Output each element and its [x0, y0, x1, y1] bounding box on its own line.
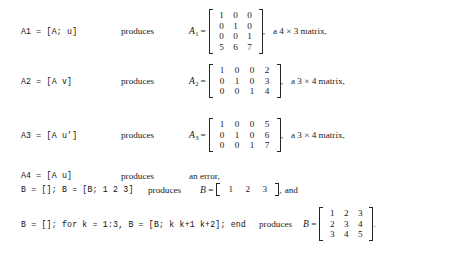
matrix-row: 1 2 3 — [222, 184, 273, 195]
matrix-cell: 2 — [260, 65, 275, 76]
matrix-b2: 1 2 3 2 3 4 3 4 5 — [319, 207, 373, 242]
matrix-cell: 0 — [230, 140, 245, 151]
matrix-cell: 0 — [215, 130, 230, 141]
code-expression-b1: B = []; B = [B; 1 2 3] — [21, 185, 148, 194]
matrix-cell: 1 — [243, 31, 257, 42]
matrix-cell: 0 — [245, 65, 260, 76]
result-a2: A2 = 1 0 0 2 0 1 0 3 — [189, 64, 345, 99]
matrix-cell: 4 — [260, 86, 275, 97]
error-message-a4: an error, — [189, 171, 220, 181]
punctuation-a1: , — [263, 26, 265, 36]
matrix-cell: 3 — [256, 184, 273, 195]
matrix-cell: 5 — [260, 119, 275, 130]
matrix-row: 1 0 0 — [215, 10, 257, 21]
matrix-cell: 1 — [215, 10, 229, 21]
matrix-b1: 1 2 3 — [216, 183, 279, 197]
matrix-cell: 0 — [245, 76, 260, 87]
matrix-cell: 1 — [229, 21, 243, 32]
produces-label-a2: produces — [121, 76, 189, 86]
matrix-cell: 0 — [215, 76, 230, 87]
matrix-cell: 2 — [239, 184, 256, 195]
punctuation-b1: , — [279, 185, 281, 195]
matrix-cell: 1 — [222, 184, 239, 195]
code-expression-a3: A3 = [A u’] — [21, 131, 121, 140]
example-row-a2: A2 = [A v] produces A2 = 1 0 0 2 0 1 — [21, 63, 345, 99]
matrix-row: 2 3 4 — [325, 219, 367, 230]
matrix-a2: 1 0 0 2 0 1 0 3 0 0 1 4 — [209, 64, 281, 99]
equals-sign-b1: = — [208, 185, 213, 195]
matrix-cells-a2: 1 0 0 2 0 1 0 3 0 0 1 4 — [214, 64, 276, 99]
punctuation-a3: , — [281, 130, 283, 140]
matrix-cell: 5 — [215, 42, 229, 53]
matrix-row: 3 4 5 — [325, 229, 367, 240]
bracket-left-icon — [209, 9, 213, 54]
matrix-row: 0 0 1 7 — [215, 140, 275, 151]
result-variable-b1: B — [200, 184, 206, 195]
matrix-row: 0 1 0 6 — [215, 130, 275, 141]
result-b1: B = 1 2 3 , and — [200, 183, 298, 197]
matrix-a1: 1 0 0 0 1 0 0 0 1 5 — [209, 9, 263, 54]
matrix-cell: 0 — [230, 119, 245, 130]
example-row-a1: A1 = [A; u] produces A1 = 1 0 0 0 1 0 — [21, 9, 327, 53]
matrix-a3: 1 0 0 5 0 1 0 6 0 0 1 7 — [209, 118, 281, 153]
matrix-cell: 1 — [215, 119, 230, 130]
result-variable-a3: A3 — [189, 129, 198, 140]
code-expression-a2: A2 = [A v] — [21, 77, 121, 86]
matrix-size-note-a2: a 3 × 4 matrix, — [291, 76, 345, 86]
matrix-row: 0 1 0 — [215, 21, 257, 32]
example-row-b1: B = []; B = [B; 1 2 3] produces B = 1 2 … — [21, 183, 298, 196]
matrix-cell: 2 — [339, 208, 353, 219]
matrix-row: 0 1 0 3 — [215, 76, 275, 87]
matrix-row: 5 6 7 — [215, 42, 257, 53]
matrix-cell: 6 — [260, 130, 275, 141]
document-page: A1 = [A; u] produces A1 = 1 0 0 0 1 0 — [0, 0, 458, 255]
example-row-a3: A3 = [A u’] produces A3 = 1 0 0 5 0 1 — [21, 117, 345, 153]
equals-sign-a3: = — [200, 130, 205, 140]
matrix-cell: 1 — [215, 65, 230, 76]
matrix-cell: 1 — [325, 208, 339, 219]
matrix-cell: 0 — [229, 31, 243, 42]
code-expression-b2: B = []; for k = 1:3, B = [B; k k+1 k+2];… — [21, 220, 259, 229]
bracket-left-icon — [216, 183, 220, 197]
matrix-row: 1 0 0 5 — [215, 119, 275, 130]
result-b2: B = 1 2 3 2 3 4 3 — [303, 207, 376, 242]
equals-sign-a1: = — [200, 26, 205, 36]
produces-label-a4: produces — [121, 171, 189, 181]
bracket-left-icon — [209, 64, 213, 99]
matrix-cell: 0 — [215, 21, 229, 32]
matrix-cell: 3 — [339, 219, 353, 230]
matrix-cell: 3 — [353, 208, 367, 219]
matrix-row: 1 2 3 — [325, 208, 367, 219]
matrix-cells-b2: 1 2 3 2 3 4 3 4 5 — [324, 207, 368, 242]
matrix-cell: 4 — [353, 219, 367, 230]
result-a3: A3 = 1 0 0 5 0 1 0 6 — [189, 118, 345, 153]
matrix-cell: 0 — [215, 31, 229, 42]
matrix-cell: 0 — [230, 86, 245, 97]
matrix-cell: 3 — [325, 229, 339, 240]
matrix-cell: 1 — [230, 76, 245, 87]
matrix-cell: 7 — [260, 140, 275, 151]
matrix-cell: 1 — [245, 86, 260, 97]
matrix-cell: 1 — [245, 140, 260, 151]
result-variable-a1: A1 — [189, 25, 198, 36]
matrix-size-note-a1: a 4 × 3 matrix, — [273, 26, 327, 36]
example-row-a4: A4 = [A u] produces an error, — [21, 170, 220, 181]
matrix-cell: 0 — [229, 10, 243, 21]
bracket-left-icon — [209, 118, 213, 153]
bracket-left-icon — [319, 207, 323, 242]
matrix-cell: 6 — [229, 42, 243, 53]
produces-label-b1: produces — [148, 185, 200, 195]
matrix-cell: 0 — [245, 119, 260, 130]
matrix-cell: 5 — [353, 229, 367, 240]
matrix-cells-a1: 1 0 0 0 1 0 0 0 1 5 — [214, 9, 258, 54]
matrix-cell: 0 — [215, 86, 230, 97]
matrix-size-note-a3: a 3 × 4 matrix, — [291, 130, 345, 140]
matrix-cell: 7 — [243, 42, 257, 53]
matrix-row: 1 0 0 2 — [215, 65, 275, 76]
matrix-row: 0 0 1 4 — [215, 86, 275, 97]
code-expression-a1: A1 = [A; u] — [21, 27, 121, 36]
produces-label-a3: produces — [121, 130, 189, 140]
matrix-cell: 3 — [260, 76, 275, 87]
matrix-cell: 1 — [230, 130, 245, 141]
produces-label-b2: produces — [259, 219, 303, 229]
